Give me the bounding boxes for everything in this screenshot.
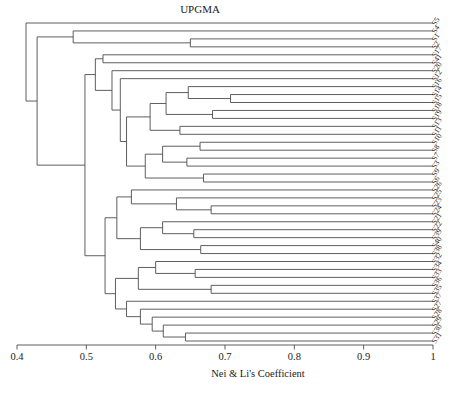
axis-tick-label: 0.9 <box>357 351 370 362</box>
axis-tick-label: 0.7 <box>218 351 231 362</box>
tree-branches <box>26 23 433 341</box>
chart-title: UPGMA <box>180 3 220 15</box>
axis-tick-label: 0.6 <box>149 351 162 362</box>
leaf-labels: S5S4S1S2S17S41S20S12S16S14S15S18S19S13S1… <box>430 15 444 345</box>
x-axis: 0.40.50.60.70.80.91 <box>10 345 435 362</box>
axis-tick-label: 0.8 <box>288 351 301 362</box>
x-axis-title: Nei & Li's Coefficient <box>211 368 305 379</box>
axis-tick-label: 1 <box>430 351 435 362</box>
dendrogram-canvas: UPGMA S5S4S1S2S17S41S20S12S16S14S15S18S1… <box>0 0 458 395</box>
axis-tick-label: 0.5 <box>80 351 93 362</box>
upgma-dendrogram-figure: UPGMA S5S4S1S2S17S41S20S12S16S14S15S18S1… <box>0 0 458 395</box>
axis-tick-label: 0.4 <box>10 351 24 362</box>
